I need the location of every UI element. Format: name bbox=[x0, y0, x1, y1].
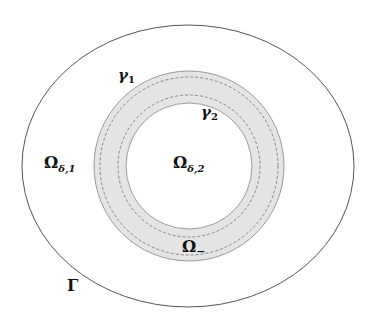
domain-diagram: γ1 γ2 Ωδ,1 Ωδ,2 Ω− Γ bbox=[0, 0, 372, 323]
label-omega-delta-1: Ωδ,1 bbox=[44, 153, 75, 175]
label-boundary-gamma: Γ bbox=[67, 276, 79, 295]
label-gamma1: γ1 bbox=[118, 66, 135, 85]
